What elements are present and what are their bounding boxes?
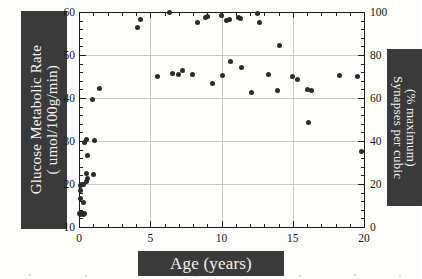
gridline-vertical	[150, 13, 151, 227]
scan-artifact	[0, 272, 419, 279]
tick-y-left-minor	[80, 158, 83, 159]
tick-y-right-minor	[361, 115, 364, 116]
data-point	[92, 138, 97, 143]
tick-y-right-minor	[361, 124, 364, 125]
tick-x-bottom-minor	[207, 224, 208, 227]
tick-y-right	[358, 227, 364, 228]
data-point	[190, 72, 195, 77]
tick-y-right-minor	[361, 132, 364, 133]
tick-y-left-minor	[80, 89, 83, 90]
data-point	[176, 72, 181, 77]
data-point	[205, 14, 210, 19]
plot-area: 10203040506002040608010005101520	[79, 12, 365, 228]
tick-y-left	[80, 227, 86, 228]
data-point	[97, 86, 102, 91]
data-point	[135, 25, 140, 30]
data-point	[85, 176, 90, 181]
tick-y-left-minor	[80, 72, 83, 73]
tick-x-top-minor	[193, 13, 194, 16]
tick-x-bottom-minor	[108, 224, 109, 227]
data-point	[170, 71, 175, 76]
tick-y-left-minor	[80, 21, 83, 22]
tick-x-top-minor	[250, 13, 251, 16]
tick-label-y-left: 60	[64, 6, 76, 18]
tick-x-top-minor	[108, 13, 109, 16]
tick-y-left-minor	[80, 167, 83, 168]
tick-y-right-minor	[361, 193, 364, 194]
data-point	[90, 97, 95, 102]
data-point	[239, 65, 244, 70]
tick-x-bottom	[150, 221, 151, 227]
tick-label-y-right: 0	[370, 221, 376, 233]
data-point	[306, 120, 311, 125]
gridline-vertical	[293, 13, 294, 227]
tick-y-left	[80, 12, 86, 13]
data-point	[220, 73, 225, 78]
data-point	[275, 88, 280, 93]
tick-y-left-minor	[80, 29, 83, 30]
tick-label-y-right: 40	[370, 135, 382, 147]
y-axis-left-title: Glucose Metabolic Rate ( umol/100g/min)	[22, 12, 66, 228]
tick-y-right-minor	[361, 29, 364, 30]
tick-label-y-right: 20	[370, 178, 382, 190]
tick-y-right-minor	[361, 38, 364, 39]
y-axis-right-title: Synapses per cubic (% maximum)	[388, 50, 422, 205]
data-point	[359, 149, 364, 154]
tick-x-top	[79, 13, 80, 18]
data-point	[81, 200, 86, 205]
data-point	[138, 17, 143, 22]
tick-x-top	[150, 13, 151, 18]
tick-y-left-minor	[80, 218, 83, 219]
tick-label-y-right: 60	[370, 92, 382, 104]
tick-label-x: 5	[147, 232, 153, 244]
y-axis-left-title-line2: ( umol/100g/min)	[45, 65, 60, 174]
tick-x-bottom-minor	[250, 224, 251, 227]
tick-x-bottom-minor	[193, 224, 194, 227]
tick-label-y-right: 80	[370, 49, 382, 61]
tick-y-left-minor	[80, 124, 83, 125]
tick-y-right	[358, 141, 364, 142]
tick-label-y-left: 20	[64, 178, 76, 190]
data-point	[249, 90, 254, 95]
tick-x-bottom-minor	[236, 224, 237, 227]
tick-x-bottom-minor	[93, 224, 94, 227]
tick-y-left-minor	[80, 107, 83, 108]
tick-x-bottom-minor	[279, 224, 280, 227]
data-point	[85, 153, 90, 158]
tick-y-left-minor	[80, 132, 83, 133]
tick-x-top-minor	[165, 13, 166, 16]
data-point	[228, 59, 233, 64]
tick-x-bottom-minor	[179, 224, 180, 227]
axis-line-right	[364, 12, 365, 228]
data-point	[155, 74, 160, 79]
tick-y-right	[358, 184, 364, 185]
tick-label-y-left: 30	[64, 135, 76, 147]
tick-x-bottom-minor	[122, 224, 123, 227]
tick-y-left-minor	[80, 64, 83, 65]
data-point	[295, 77, 300, 82]
tick-x-bottom-minor	[336, 224, 337, 227]
tick-y-right-minor	[361, 210, 364, 211]
data-point	[337, 73, 342, 78]
tick-label-x: 10	[216, 232, 228, 244]
tick-y-right-minor	[361, 158, 364, 159]
tick-y-left-minor	[80, 81, 83, 82]
tick-x-top	[293, 13, 294, 18]
tick-x-bottom-minor	[307, 224, 308, 227]
tick-y-left-minor	[80, 38, 83, 39]
tick-x-bottom	[364, 221, 365, 227]
tick-x-bottom-minor	[136, 224, 137, 227]
tick-x-top-minor	[336, 13, 337, 16]
tick-x-bottom-minor	[321, 224, 322, 227]
data-point	[219, 13, 224, 18]
tick-y-left	[80, 98, 86, 99]
data-point	[91, 172, 96, 177]
tick-y-right-minor	[361, 46, 364, 47]
tick-y-left-minor	[80, 175, 83, 176]
y-axis-right-title-line2: (% maximum)	[405, 89, 418, 167]
tick-x-bottom	[293, 221, 294, 227]
tick-x-top-minor	[307, 13, 308, 16]
tick-y-right-minor	[361, 201, 364, 202]
tick-x-top-minor	[122, 13, 123, 16]
